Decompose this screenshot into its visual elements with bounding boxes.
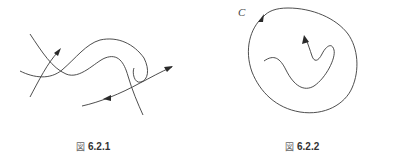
inner-curve [264, 39, 334, 88]
figure-6-2-1: 図6.2.1 [0, 0, 200, 159]
figure-caption: 図6.2.2 [285, 140, 319, 153]
figure-6-2-2: C 図6.2.2 [200, 0, 395, 159]
figure-caption: 図6.2.1 [76, 140, 110, 153]
figure-symbol: 図 [76, 142, 85, 152]
arrowhead-icon [302, 35, 309, 44]
figure-number: 6.2.1 [88, 141, 110, 152]
tangled-curves-diagram [0, 0, 200, 159]
figure-symbol: 図 [285, 142, 294, 152]
figure-number: 6.2.2 [297, 141, 319, 152]
arrowhead-icon [103, 95, 111, 101]
curve-2 [20, 39, 148, 82]
arrowhead-icon [164, 66, 173, 72]
closed-curve-diagram [200, 0, 395, 159]
curve-1 [30, 34, 143, 115]
